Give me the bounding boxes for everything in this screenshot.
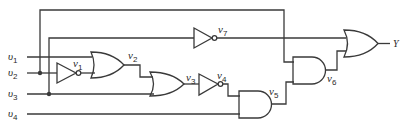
and-gate-v6 (293, 51, 346, 84)
logic-circuit-diagram: υ1 υ2 υ3 υ4 v1 v2 v3 v4 v5 v6 v7 Y (0, 0, 408, 128)
input-label-u4: υ4 (8, 108, 18, 123)
or-gate-output (344, 30, 390, 57)
junction-dot-u3 (47, 92, 51, 96)
gate-label-v6: v6 (327, 73, 336, 88)
gate-label-v2: v2 (128, 50, 137, 65)
gate-label-v4: v4 (217, 70, 226, 85)
and-gate-v5 (239, 82, 294, 118)
input-label-u2: υ2 (8, 67, 18, 82)
circuit-wires-and-gates (0, 0, 408, 128)
gate-label-v3: v3 (186, 72, 195, 87)
wire-u3-to-v7 (49, 38, 194, 94)
input-label-u3: υ3 (8, 88, 18, 103)
or-gate-v2 (91, 52, 153, 78)
not-gate-v7 (194, 28, 346, 48)
gate-label-v1: v1 (73, 58, 82, 73)
gate-label-v5: v5 (269, 86, 278, 101)
input-wires (27, 10, 294, 114)
output-label-y: Y (393, 38, 399, 49)
gate-label-v7: v7 (218, 24, 227, 39)
junction-dot-u2 (38, 71, 42, 75)
input-label-u1: υ1 (8, 51, 18, 66)
